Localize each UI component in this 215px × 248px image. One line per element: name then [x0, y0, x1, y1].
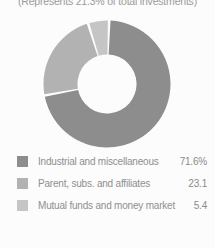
donut-chart-svg: [43, 20, 171, 148]
legend-value: 5.4: [194, 200, 207, 211]
legend-row: Parent, subs. and affiliates 23.1: [17, 177, 207, 189]
donut-chart: [43, 20, 171, 148]
legend-swatch-icon: [17, 178, 28, 189]
legend-label: Parent, subs. and affiliates: [38, 178, 188, 189]
legend-swatch-icon: [17, 156, 28, 167]
legend-value: 23.1: [188, 178, 207, 189]
chart-caption: (Represents 21.3% of total investments): [0, 0, 215, 8]
legend-label: Mutual funds and money market: [38, 200, 194, 211]
chart-legend: Industrial and miscellaneous 71.6% Paren…: [17, 155, 207, 221]
legend-row: Industrial and miscellaneous 71.6%: [17, 155, 207, 167]
legend-swatch-icon: [17, 200, 28, 211]
legend-row: Mutual funds and money market 5.4: [17, 199, 207, 211]
legend-value: 71.6%: [180, 156, 207, 167]
donut-segment: [43, 24, 97, 94]
legend-label: Industrial and miscellaneous: [38, 156, 180, 167]
